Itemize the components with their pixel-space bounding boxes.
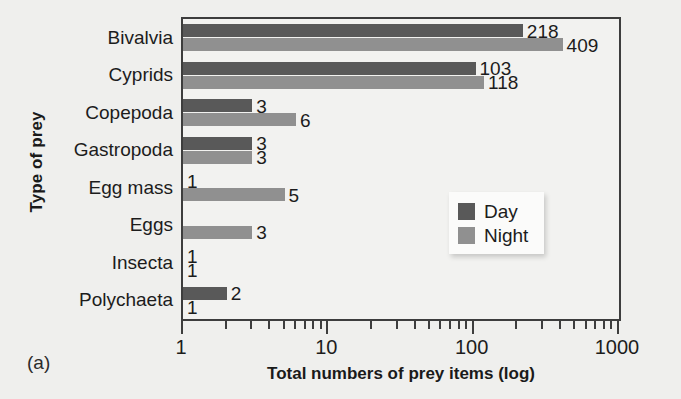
bar-value-label: 1 xyxy=(187,298,198,317)
bar-value-label: 118 xyxy=(488,73,518,92)
legend-item: Night xyxy=(458,223,528,247)
x-axis-minor-tick xyxy=(304,321,306,329)
x-axis-minor-tick xyxy=(585,321,587,329)
y-axis-tick-label: Copepoda xyxy=(85,103,173,122)
x-axis-minor-tick xyxy=(449,321,451,329)
y-axis-tick-label: Gastropoda xyxy=(74,140,173,159)
x-axis-minor-tick xyxy=(594,321,596,329)
x-axis-minor-tick xyxy=(465,321,467,329)
bar-value-label: 5 xyxy=(289,186,300,205)
x-axis-tick-label: 1000 xyxy=(595,336,640,359)
x-axis-minor-tick xyxy=(414,321,416,329)
x-axis-tick-label: 100 xyxy=(455,336,488,359)
x-axis-minor-tick xyxy=(294,321,296,329)
bar-night xyxy=(183,113,296,126)
bar-night xyxy=(183,151,252,164)
x-axis-title: Total numbers of prey items (log) xyxy=(181,364,621,384)
x-axis-minor-tick xyxy=(428,321,430,329)
legend-label: Day xyxy=(484,202,518,221)
x-axis-minor-tick xyxy=(439,321,441,329)
x-axis-major-tick xyxy=(472,321,474,334)
x-axis-minor-tick xyxy=(458,321,460,329)
bar-series-group: 21840910311836331531121 xyxy=(183,19,619,319)
bar-day xyxy=(183,24,523,37)
x-axis-minor-tick xyxy=(610,321,612,329)
y-axis-tick-label: Eggs xyxy=(130,215,173,234)
x-axis-minor-tick xyxy=(603,321,605,329)
bar-night xyxy=(183,226,252,239)
legend: DayNight xyxy=(449,192,544,254)
x-axis-minor-tick xyxy=(515,321,517,329)
x-axis-major-tick xyxy=(617,321,619,334)
x-axis-minor-tick xyxy=(370,321,372,329)
x-axis-minor-tick xyxy=(541,321,543,329)
legend-label: Night xyxy=(484,226,528,245)
x-axis-minor-tick xyxy=(312,321,314,329)
legend-swatch-icon xyxy=(458,203,475,220)
x-axis-major-tick xyxy=(181,321,183,334)
bar-value-label: 6 xyxy=(300,111,311,130)
legend-item: Day xyxy=(458,199,528,223)
panel-label: (a) xyxy=(27,352,50,374)
y-axis-tick-label: Cyprids xyxy=(109,65,173,84)
x-axis: Total numbers of prey items (log) 110100… xyxy=(181,321,621,399)
x-axis-tick-label: 10 xyxy=(315,336,337,359)
x-axis-tick-label: 1 xyxy=(175,336,186,359)
bar-night xyxy=(183,76,484,89)
x-axis-minor-tick xyxy=(320,321,322,329)
bar-value-label: 2 xyxy=(231,284,242,303)
x-axis-minor-tick xyxy=(268,321,270,329)
x-axis-minor-tick xyxy=(396,321,398,329)
x-axis-major-tick xyxy=(326,321,328,334)
y-axis-tick-label: Bivalvia xyxy=(108,28,173,47)
bar-day xyxy=(183,137,252,150)
x-axis-minor-tick xyxy=(559,321,561,329)
bar-value-label: 1 xyxy=(187,261,198,280)
y-axis-tick-label: Insecta xyxy=(112,253,173,272)
bar-value-label: 409 xyxy=(567,36,599,55)
y-axis-tick-labels: BivalviaCypridsCopepodaGastropodaEgg mas… xyxy=(0,19,173,319)
x-axis-minor-tick xyxy=(573,321,575,329)
bar-value-label: 3 xyxy=(256,148,267,167)
x-axis-minor-tick xyxy=(225,321,227,329)
bar-night xyxy=(183,188,285,201)
legend-swatch-icon xyxy=(458,227,475,244)
bar-value-label: 3 xyxy=(256,223,267,242)
figure-panel-a: Type of prey (a) BivalviaCypridsCopepoda… xyxy=(0,0,681,399)
bar-day xyxy=(183,99,252,112)
x-axis-minor-tick xyxy=(283,321,285,329)
bar-night xyxy=(183,38,563,51)
x-axis-minor-tick xyxy=(250,321,252,329)
y-axis-tick-label: Polychaeta xyxy=(79,290,173,309)
bar-day xyxy=(183,62,476,75)
y-axis-tick-label: Egg mass xyxy=(89,178,173,197)
